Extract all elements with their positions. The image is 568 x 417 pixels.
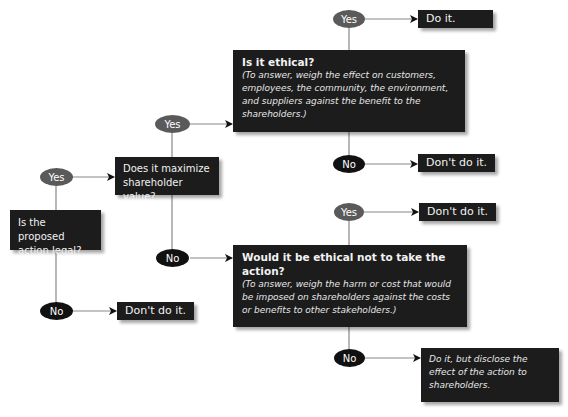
ethical-question-note: (To answer, weigh the effect on customer… <box>242 69 456 121</box>
not-act-yes-oval: Yes <box>334 203 364 221</box>
maximize-question-box: Does it maximize shareholder value? <box>115 157 219 195</box>
ethical-no-oval: No <box>333 155 365 173</box>
maximize-no-oval: No <box>156 249 189 267</box>
legal-no-outcome-box: Don't do it. <box>117 302 194 320</box>
legal-yes-oval: Yes <box>40 168 73 186</box>
not-act-question-title: Would it be ethical not to take the acti… <box>242 250 458 278</box>
not-act-no-outcome-box: Do it, but disclose the effect of the ac… <box>421 348 559 402</box>
not-act-question-box: Would it be ethical not to take the acti… <box>233 245 467 327</box>
ethical-no-outcome-box: Don't do it. <box>418 154 495 172</box>
not-act-question-note: (To answer, weigh the harm or cost that … <box>242 278 458 317</box>
ethical-question-title: Is it ethical? <box>242 55 456 69</box>
legal-question-box: Is the proposed action legal? <box>10 210 101 250</box>
not-act-no-outcome-text: Do it, but disclose the effect of the ac… <box>429 353 551 392</box>
not-act-yes-outcome-box: Don't do it. <box>419 203 496 221</box>
maximize-yes-oval: Yes <box>155 115 190 133</box>
ethical-yes-oval: Yes <box>333 10 365 28</box>
not-act-no-oval: No <box>334 349 365 367</box>
legal-no-oval: No <box>40 302 73 320</box>
ethical-yes-outcome-box: Do it. <box>418 10 493 28</box>
ethical-question-box: Is it ethical? (To answer, weigh the eff… <box>233 50 465 132</box>
